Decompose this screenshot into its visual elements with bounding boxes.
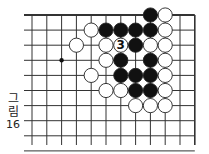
star-points: [59, 58, 63, 62]
black-stone: [143, 68, 157, 82]
white-stone: [99, 53, 113, 67]
white-stone: [143, 99, 157, 113]
figure-label-char-1: 그: [4, 93, 22, 105]
figure-label-char-2: 림: [4, 106, 22, 118]
black-stone: [99, 23, 113, 37]
white-stone: [114, 83, 128, 97]
black-stone: [143, 53, 157, 67]
white-stone: [158, 23, 172, 37]
white-stone: [158, 83, 172, 97]
figure-number: 16: [4, 119, 22, 130]
black-stone: [129, 23, 143, 37]
black-stone: [114, 23, 128, 37]
black-stone: [114, 53, 128, 67]
go-board-diagram: 3: [0, 0, 209, 154]
black-stone: [129, 83, 143, 97]
white-stone: [158, 53, 172, 67]
white-stone: [99, 83, 113, 97]
black-stone: [143, 8, 157, 22]
white-stone: 3: [114, 38, 128, 52]
star-point: [59, 58, 63, 62]
white-stone: [158, 68, 172, 82]
white-stone: [158, 8, 172, 22]
white-stone: [158, 38, 172, 52]
white-stone: [129, 99, 143, 113]
white-stone: [69, 38, 83, 52]
move-number: 3: [117, 38, 125, 52]
black-stone: [129, 68, 143, 82]
white-stone: [99, 38, 113, 52]
white-stone: [84, 23, 98, 37]
white-stone: [84, 68, 98, 82]
black-stone: [129, 38, 143, 52]
white-stone: [158, 99, 172, 113]
black-stone: [143, 83, 157, 97]
black-stone: [114, 68, 128, 82]
white-stone: [143, 38, 157, 52]
black-stone: [143, 23, 157, 37]
